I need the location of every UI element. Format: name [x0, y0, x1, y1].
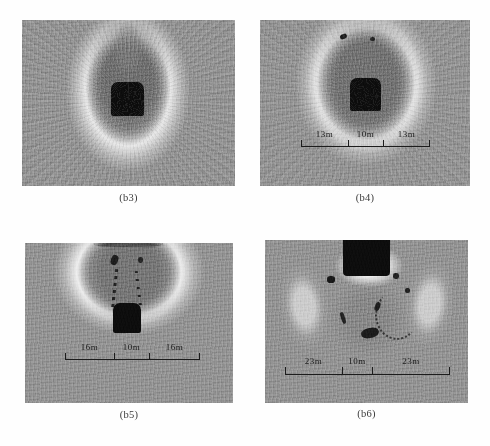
- scale-bar-tick-3: [429, 140, 430, 147]
- scale-bar-line: [65, 359, 200, 360]
- scale-bar: 16m 10m 16m: [65, 341, 200, 367]
- scale-bar-tick-3: [199, 353, 200, 360]
- panel-b3: (b3): [22, 20, 235, 186]
- scale-bar-tick-1: [348, 140, 349, 147]
- scale-bar: 13m 10m 13m: [301, 128, 430, 154]
- rock-texture-fine: [25, 243, 233, 403]
- figure-container: (b3) 13m 10m 13m: [0, 0, 490, 446]
- scale-label-left: 16m: [65, 341, 114, 353]
- panel-b5-image: 16m 10m 16m: [25, 243, 233, 403]
- panel-b4: 13m 10m 13m (b4): [260, 20, 470, 186]
- scale-bar-labels: 13m 10m 13m: [301, 128, 430, 140]
- panel-b4-caption: (b4): [260, 192, 470, 203]
- scale-bar-tick-0: [285, 367, 286, 375]
- panel-b5: 16m 10m 16m (b5): [25, 243, 233, 403]
- scale-bar-tick-0: [65, 353, 66, 360]
- scale-label-left: 23m: [285, 355, 342, 367]
- panel-b5-caption: (b5): [25, 409, 233, 420]
- scale-bar-line: [285, 374, 450, 375]
- scale-bar-tick-2: [383, 140, 384, 147]
- scale-bar-labels: 16m 10m 16m: [65, 341, 200, 353]
- scale-bar-labels: 23m 10m 23m: [285, 355, 450, 367]
- scale-label-right: 13m: [383, 128, 430, 140]
- panel-b6-caption: (b6): [265, 408, 468, 419]
- panel-b4-image: 13m 10m 13m: [260, 20, 470, 186]
- scale-bar-tick-2: [149, 353, 150, 360]
- scale-bar-tick-0: [301, 140, 302, 147]
- scale-bar-line: [301, 146, 430, 147]
- scale-label-right: 23m: [372, 355, 450, 367]
- scale-bar-tick-1: [114, 353, 115, 360]
- scale-label-center: 10m: [342, 355, 372, 367]
- scale-bar-tick-1: [342, 367, 343, 375]
- scale-label-center: 10m: [114, 341, 149, 353]
- panel-b3-caption: (b3): [22, 192, 235, 203]
- scale-bar-tick-3: [449, 367, 450, 375]
- panel-b6: 23m 10m 23m (b6): [265, 240, 468, 403]
- panel-b6-image: 23m 10m 23m: [265, 240, 468, 403]
- rock-texture-fine: [260, 20, 470, 186]
- scale-label-left: 13m: [301, 128, 348, 140]
- scale-bar-tick-2: [372, 367, 373, 375]
- scale-label-right: 16m: [149, 341, 200, 353]
- scale-bar: 23m 10m 23m: [285, 355, 450, 381]
- panel-b3-image: [22, 20, 235, 186]
- rock-texture-fine: [22, 20, 235, 186]
- scale-label-center: 10m: [348, 128, 383, 140]
